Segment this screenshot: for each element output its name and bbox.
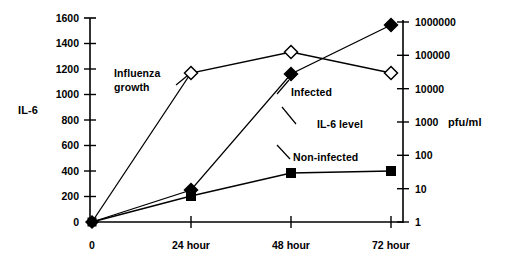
x-tick-label-72-hour: 72 hour <box>356 239 426 251</box>
x-tick-label-24-hour: 24 hour <box>156 239 226 251</box>
right-tick-label-100: 100 <box>415 149 433 161</box>
right-tick-label-1: 1 <box>415 216 421 228</box>
leader-line-il6-level <box>282 107 296 124</box>
annotation-non-infected: Non-infected <box>293 151 358 163</box>
bottom-x-axis <box>90 216 403 228</box>
x-tick-label-0: 0 <box>72 239 112 251</box>
annotation-influenza-growth: Influenza growth <box>114 66 160 94</box>
data-point-origin-cluster <box>85 215 99 229</box>
left-tick-label-400: 400 <box>34 165 79 177</box>
right-axis-title: pfu/ml <box>448 116 482 128</box>
left-tick-label-1600: 1600 <box>34 12 79 24</box>
leader-line-infected <box>277 80 289 94</box>
annotation-il6-level: IL-6 level <box>317 118 363 130</box>
series-non-infected-il6 <box>92 167 396 223</box>
right-tick-label-100000: 100000 <box>415 49 450 61</box>
data-point-influenza-24h <box>185 67 198 80</box>
left-tick-label-800: 800 <box>34 114 79 126</box>
left-y-axis <box>84 18 96 223</box>
data-point-non-infected-72h <box>387 167 396 176</box>
right-y-axis <box>397 20 409 223</box>
left-tick-label-1000: 1000 <box>34 88 79 100</box>
annotation-infected: Infected <box>291 86 332 98</box>
right-tick-label-10000: 10000 <box>415 83 444 95</box>
chart-figure: IL-6 pfu/ml 1600 1400 1200 1000 800 600 … <box>0 0 509 267</box>
left-tick-label-200: 200 <box>34 190 79 202</box>
data-point-non-infected-24h <box>187 192 196 201</box>
x-tick-label-48-hour: 48 hour <box>256 239 326 251</box>
leader-line-non-infected <box>277 145 290 159</box>
annotation-influenza-growth-line2: growth <box>114 80 160 94</box>
left-tick-label-1200: 1200 <box>34 63 79 75</box>
left-tick-label-600: 600 <box>34 139 79 151</box>
data-point-influenza-48h <box>285 46 298 59</box>
right-tick-label-1000000: 1000000 <box>415 16 456 28</box>
right-tick-label-1000: 1000 <box>415 116 438 128</box>
data-point-infected-72h <box>385 19 398 32</box>
annotation-influenza-growth-line1: Influenza <box>114 67 160 79</box>
right-tick-label-10: 10 <box>415 183 427 195</box>
data-point-non-infected-48h <box>287 169 296 178</box>
left-tick-label-1400: 1400 <box>34 37 79 49</box>
data-point-influenza-72h <box>385 67 398 80</box>
left-tick-label-0: 0 <box>34 216 79 228</box>
